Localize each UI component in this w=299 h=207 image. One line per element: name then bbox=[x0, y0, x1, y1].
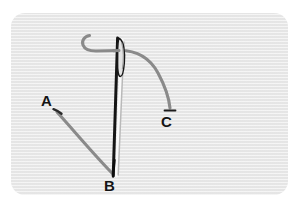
thread-tail-to-a bbox=[57, 112, 113, 174]
point-label-a: A bbox=[41, 93, 52, 108]
point-label-b: B bbox=[104, 178, 115, 193]
figure-canvas: A B C bbox=[0, 0, 299, 207]
thread-tail-to-c bbox=[118, 50, 170, 108]
needle-tip bbox=[113, 160, 114, 177]
thread-hook-curl bbox=[83, 36, 120, 52]
point-label-c: C bbox=[161, 114, 172, 129]
